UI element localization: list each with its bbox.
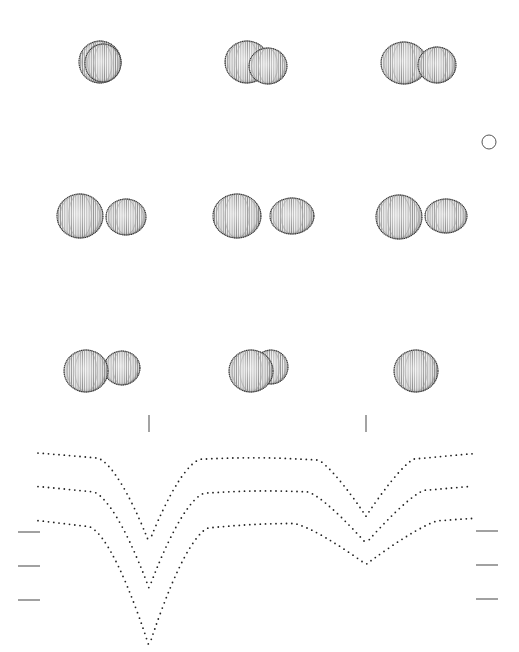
star-primary xyxy=(57,194,103,238)
star-secondary xyxy=(418,47,456,83)
eclipse-ticks xyxy=(149,415,366,432)
phase-frame-4 xyxy=(57,194,146,238)
phase-frame-6 xyxy=(376,195,467,239)
star-single xyxy=(394,350,438,392)
star-secondary xyxy=(249,48,287,84)
light-curves xyxy=(37,452,473,645)
star-primary xyxy=(229,350,273,392)
light-curve-3 xyxy=(37,518,472,645)
level-marks xyxy=(18,531,498,600)
phase-frame-8 xyxy=(229,350,288,392)
star-secondary xyxy=(425,199,467,233)
star-primary xyxy=(376,195,422,239)
phase-frame-5 xyxy=(213,194,314,238)
phase-frame-1 xyxy=(79,41,121,83)
star-back-edge xyxy=(85,44,121,82)
star-secondary-teardrop xyxy=(270,198,314,234)
star-primary xyxy=(213,194,261,238)
phase-frame-2 xyxy=(225,41,287,84)
phase-frame-3 xyxy=(381,42,456,84)
phase-frames xyxy=(57,41,467,392)
binary-star-figure xyxy=(0,0,519,652)
star-primary xyxy=(64,350,108,392)
star-secondary xyxy=(104,351,140,385)
star-secondary xyxy=(106,199,146,235)
marker-circle-icon xyxy=(482,135,496,149)
light-curve-2 xyxy=(37,486,468,589)
light-curve-1 xyxy=(37,452,473,539)
phase-frame-7 xyxy=(64,350,140,392)
phase-frame-9 xyxy=(394,350,438,392)
